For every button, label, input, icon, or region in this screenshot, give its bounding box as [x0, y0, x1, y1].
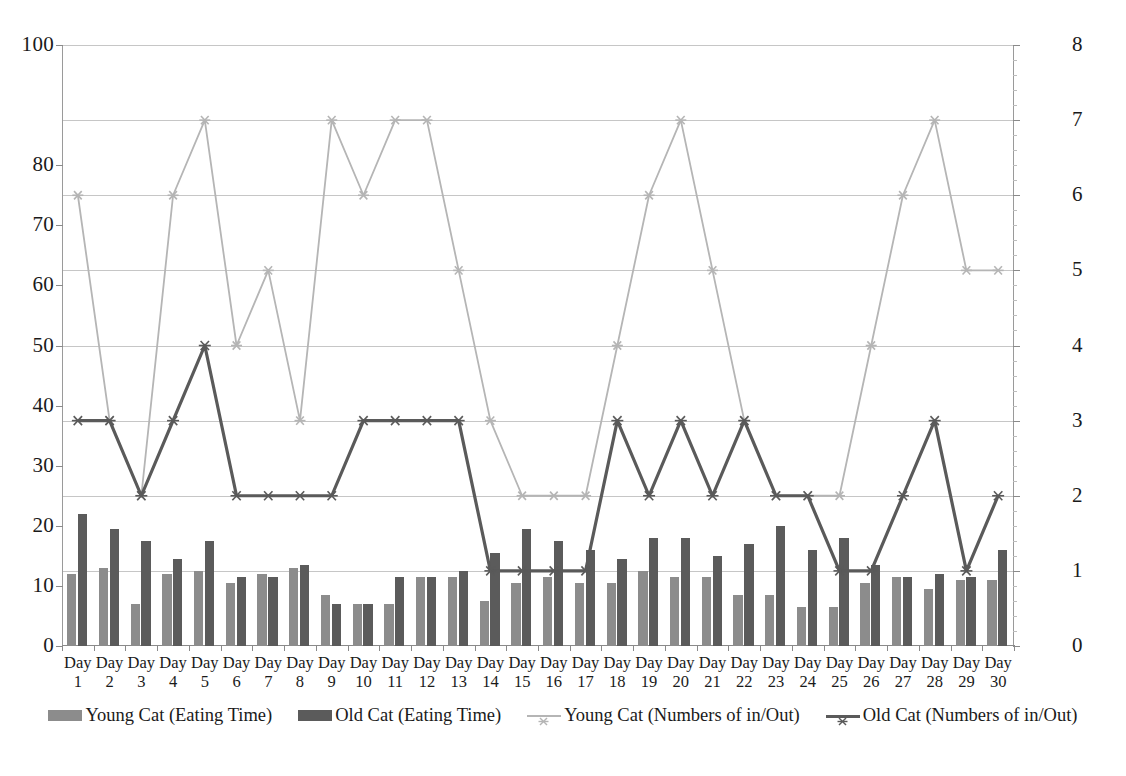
category-axis-label: Day14: [475, 653, 507, 691]
category-axis-tick: [284, 645, 285, 651]
category-axis-label-number: 9: [316, 672, 348, 691]
category-axis-label: Day2: [94, 653, 126, 691]
left-axis-tick-label: 80: [32, 154, 54, 175]
category-axis-label-number: 26: [855, 672, 887, 691]
legend-item-label: Young Cat (Numbers of in/Out): [564, 706, 800, 725]
right-axis-tick-label: 3: [1072, 410, 1083, 431]
category-axis-label-number: 4: [157, 672, 189, 691]
legend-item-label: Old Cat (Numbers of in/Out): [863, 706, 1078, 725]
right-axis-tick-mark: [1013, 346, 1020, 347]
category-axis-label-word: Day: [252, 653, 284, 672]
right-axis-tick-label: 5: [1072, 259, 1083, 280]
legend-item[interactable]: Young Cat (Numbers of in/Out): [527, 706, 800, 725]
category-axis-label: Day24: [792, 653, 824, 691]
category-axis-tick: [887, 645, 888, 651]
data-point-marker: Young Cat (Numbers of in/Out) — Day 10: …: [358, 191, 369, 199]
category-axis-label-word: Day: [824, 653, 856, 672]
category-axis-label-word: Day: [538, 653, 570, 672]
category-axis-label-number: 22: [728, 672, 760, 691]
category-axis-label-number: 25: [824, 672, 856, 691]
legend-star-marker-icon: [538, 711, 549, 722]
category-axis-label: Day8: [284, 653, 316, 691]
category-axis-label-word: Day: [475, 653, 507, 672]
category-axis-label: Day11: [379, 653, 411, 691]
category-axis-label-number: 15: [506, 672, 538, 691]
right-axis-tick-label: 1: [1072, 560, 1083, 581]
data-point-marker: Old Cat (Numbers of in/Out) — Day 11: 3: [389, 416, 401, 425]
category-axis-label-word: Day: [697, 653, 729, 672]
category-axis-label-number: 6: [221, 672, 253, 691]
legend-item[interactable]: Old Cat (Numbers of in/Out): [826, 706, 1078, 725]
data-point-marker: Old Cat (Numbers of in/Out) — Day 1: 3: [72, 416, 84, 425]
left-axis-tick-label: 30: [32, 455, 54, 476]
legend-item-label: Old Cat (Eating Time): [335, 706, 501, 725]
legend-bar-swatch-icon: [48, 710, 82, 721]
category-axis-label: Day10: [348, 653, 380, 691]
left-axis-tick-label: 40: [32, 395, 54, 416]
category-axis-tick: [348, 645, 349, 651]
category-axis-tick: [443, 645, 444, 651]
category-axis-tick: [951, 645, 952, 651]
legend-star-marker-icon: [837, 711, 848, 722]
category-axis-tick: [633, 645, 634, 651]
legend-item[interactable]: Old Cat (Eating Time): [298, 706, 501, 725]
category-axis-label-word: Day: [94, 653, 126, 672]
category-axis-label-number: 29: [951, 672, 983, 691]
category-axis-label-word: Day: [125, 653, 157, 672]
category-axis-tick: [411, 645, 412, 651]
category-axis-label-number: 10: [348, 672, 380, 691]
line-path: [78, 346, 998, 571]
right-axis-tick-mark: [1013, 45, 1020, 46]
category-axis-tick: [157, 645, 158, 651]
cat-activity-chart: 01020304050607080100 012345678 Young Cat…: [0, 0, 1126, 776]
category-axis-label-number: 1: [62, 672, 94, 691]
data-point-marker: Old Cat (Numbers of in/Out) — Day 7: 2: [262, 491, 274, 500]
category-axis-label-word: Day: [379, 653, 411, 672]
right-axis-tick-label: 2: [1072, 485, 1083, 506]
category-axis-label-word: Day: [728, 653, 760, 672]
category-axis-label-number: 12: [411, 672, 443, 691]
category-axis-label: Day1: [62, 653, 94, 691]
category-axis-tick: [1014, 645, 1015, 651]
category-axis-label-number: 16: [538, 672, 570, 691]
category-axis-tick: [125, 645, 126, 651]
category-axis-label-word: Day: [411, 653, 443, 672]
category-axis-label: Day27: [887, 653, 919, 691]
data-point-marker: Old Cat (Numbers of in/Out) — Day 15: 1: [516, 566, 528, 575]
category-axis-label-word: Day: [348, 653, 380, 672]
category-axis-tick: [189, 645, 190, 651]
category-axis-label-number: 11: [379, 672, 411, 691]
category-axis-tick: [252, 645, 253, 651]
category-axis-label: Day28: [919, 653, 951, 691]
category-axis-label-word: Day: [665, 653, 697, 672]
data-point-marker: Old Cat (Numbers of in/Out) — Day 16: 1: [548, 566, 560, 575]
line-series-layer: Young Cat (Numbers of in/Out) — Day 1: 6…: [62, 45, 1014, 646]
category-axis-label: Day4: [157, 653, 189, 691]
category-axis-label-word: Day: [284, 653, 316, 672]
category-axis-label-number: 30: [982, 672, 1014, 691]
data-point-marker: Young Cat (Numbers of in/Out) — Day 15: …: [517, 492, 528, 500]
category-axis-tick: [506, 645, 507, 651]
left-axis-tick-label: 10: [32, 575, 54, 596]
category-axis-label: Day3: [125, 653, 157, 691]
category-axis-label-word: Day: [157, 653, 189, 672]
category-axis-label-word: Day: [792, 653, 824, 672]
category-axis-label: Day15: [506, 653, 538, 691]
category-axis-label: Day29: [951, 653, 983, 691]
category-axis-label-number: 8: [284, 672, 316, 691]
category-axis-label-number: 14: [475, 672, 507, 691]
category-axis-tick: [665, 645, 666, 651]
category-axis-tick: [316, 645, 317, 651]
category-axis-tick: [475, 645, 476, 651]
chart-legend: Young Cat (Eating Time)Old Cat (Eating T…: [0, 706, 1126, 725]
category-axis-label: Day9: [316, 653, 348, 691]
category-axis-label: Day7: [252, 653, 284, 691]
legend-item-label: Young Cat (Eating Time): [85, 706, 272, 725]
category-axis-label-word: Day: [316, 653, 348, 672]
category-axis-tick: [570, 645, 571, 651]
category-axis-label: Day26: [855, 653, 887, 691]
left-axis-tick-label: 70: [32, 214, 54, 235]
legend-bar-swatch-icon: [298, 710, 332, 721]
legend-item[interactable]: Young Cat (Eating Time): [48, 706, 272, 725]
category-axis-label-word: Day: [601, 653, 633, 672]
